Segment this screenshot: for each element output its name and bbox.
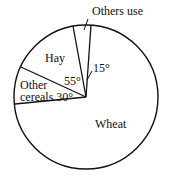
label-cereals-30: cereals 30° [20, 91, 73, 104]
label-wheat: Wheat [95, 118, 126, 131]
label-others-use: Others use [92, 5, 143, 18]
label-hay: Hay [45, 52, 65, 65]
pie-chart: Others use 15° Hay 55° Other cereals 30°… [0, 0, 174, 185]
label-15-degrees: 15° [93, 62, 110, 75]
label-55-degrees: 55° [64, 75, 81, 88]
